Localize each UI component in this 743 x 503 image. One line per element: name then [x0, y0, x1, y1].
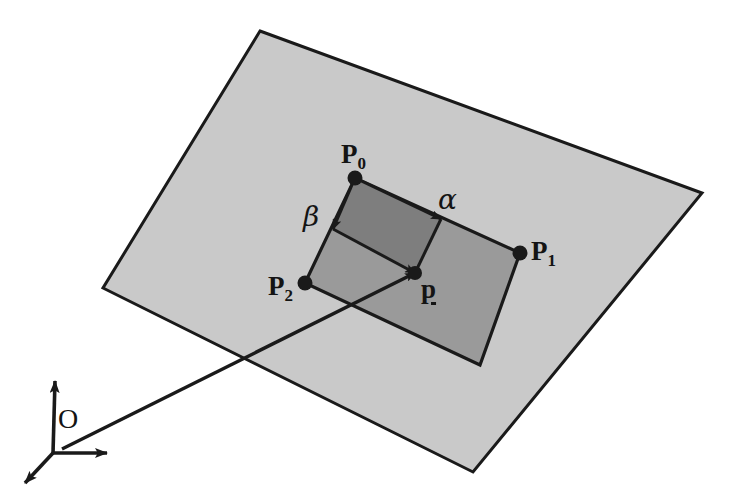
point-label-subscript: 1	[548, 251, 557, 270]
point-label-subscript: 2	[285, 286, 294, 305]
label-point-p0: P0	[341, 141, 366, 168]
label-origin: O	[58, 405, 78, 433]
label-interior-point-p: p	[421, 276, 436, 303]
label-point-p1: P1	[531, 238, 556, 265]
label-parameter-alpha: α	[438, 186, 457, 214]
interior-point-dot-p	[408, 266, 422, 280]
vertex-dot-p1	[513, 246, 528, 261]
vertex-dot-p2	[298, 276, 313, 291]
figure-canvas	[0, 0, 743, 503]
axis-up-arrow	[53, 381, 55, 453]
label-parameter-beta: β	[303, 203, 319, 231]
point-label-base: P	[268, 271, 285, 301]
geometry-figure: P0 P1 P2 α β p O	[0, 0, 743, 503]
point-label-base: P	[341, 139, 358, 169]
point-label-subscript: 0	[358, 154, 367, 173]
point-label-base: P	[531, 236, 548, 266]
label-point-p2: P2	[268, 273, 293, 300]
axis-depth-arrow	[25, 453, 53, 483]
